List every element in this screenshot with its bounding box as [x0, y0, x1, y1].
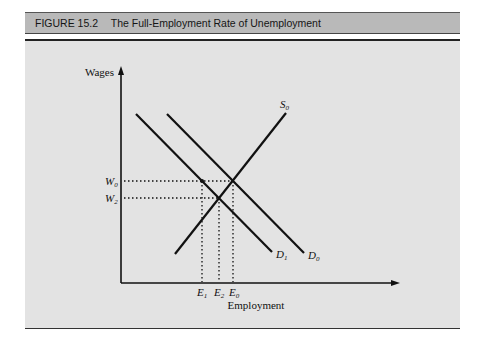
- x-axis-label: Employment: [228, 299, 285, 311]
- point-w0-e1: [200, 179, 204, 183]
- label-d0: D0: [307, 249, 320, 263]
- y-axis-arrow-icon: [118, 66, 124, 75]
- y-axis-label: Wages: [85, 66, 114, 78]
- labor-market-diagram: S0 D1 D0 Wages Employment W0 W2 E1 E2 E0: [0, 0, 481, 345]
- demand-curve-d1: [136, 114, 272, 252]
- label-e2: E2: [213, 286, 225, 300]
- label-d1: D1: [275, 248, 287, 262]
- label-s0: S0: [280, 98, 290, 112]
- x-axis-arrow-icon: [391, 280, 400, 286]
- label-e0: E0: [228, 286, 240, 300]
- supply-curve-s0: [175, 113, 286, 254]
- label-w0: W0: [105, 175, 118, 189]
- demand-curve-d0: [167, 114, 304, 253]
- label-e1: E1: [196, 286, 207, 300]
- label-w2: W2: [105, 192, 118, 206]
